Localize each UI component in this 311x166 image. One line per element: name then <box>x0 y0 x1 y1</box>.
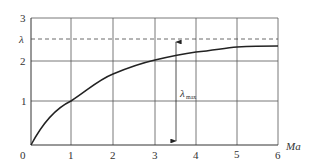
y-label-lambda: λ <box>18 33 24 45</box>
x-tick-6: 6 <box>275 149 281 161</box>
lambda-max-subscript: max <box>186 94 196 100</box>
x-tick-3: 3 <box>152 149 158 161</box>
x-axis-label: Ma <box>285 140 301 152</box>
x-tick-1: 1 <box>68 149 74 161</box>
axes <box>31 18 278 145</box>
y-tick-2: 2 <box>20 55 26 67</box>
grid <box>31 18 278 145</box>
y-tick-3: 3 <box>20 12 26 24</box>
x-tick-4: 4 <box>193 149 199 161</box>
y-tick-1: 1 <box>21 95 27 107</box>
origin-label: 0 <box>20 149 26 161</box>
x-tick-5: 5 <box>234 148 240 160</box>
chart: 3 λ 2 1 0 1 2 3 4 5 6 Ma λ max <box>0 0 311 166</box>
lambda-max-label: λ <box>179 87 185 99</box>
x-tick-2: 2 <box>110 149 116 161</box>
